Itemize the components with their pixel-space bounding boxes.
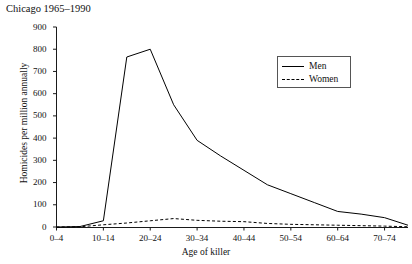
x-axis-tick-label: 70–74 [362, 234, 408, 243]
legend-item-men: Men [282, 59, 326, 73]
legend: Men Women [277, 56, 351, 88]
legend-item-women: Women [282, 72, 338, 86]
x-axis-tick-label: 30–34 [174, 234, 220, 243]
chart-figure: Chicago 1965–1990 0100200300400500600700… [0, 0, 412, 264]
x-axis-tick-label: 50–54 [268, 234, 314, 243]
x-axis-tick-label: 40–44 [221, 234, 267, 243]
series-line-women [57, 219, 409, 227]
plot-area [0, 0, 412, 264]
y-axis-label: Homicides per million annually [19, 38, 29, 208]
x-axis-label: Age of killer [0, 247, 412, 257]
legend-line-dashed-icon [282, 79, 304, 80]
data-series-group [57, 49, 409, 227]
y-axis-ticks [53, 27, 57, 227]
x-axis-tick-label: 0–4 [34, 234, 80, 243]
y-axis-tick-label: 900 [17, 23, 47, 32]
x-axis-tick-label: 10–14 [80, 234, 126, 243]
legend-label-men: Men [309, 61, 326, 71]
x-axis-tick-label: 20–24 [127, 234, 173, 243]
series-line-men [57, 49, 409, 227]
legend-line-solid-icon [282, 66, 304, 67]
x-axis-tick-label: 60–64 [315, 234, 361, 243]
legend-label-women: Women [309, 74, 338, 84]
y-axis-tick-label: 0 [17, 223, 47, 232]
